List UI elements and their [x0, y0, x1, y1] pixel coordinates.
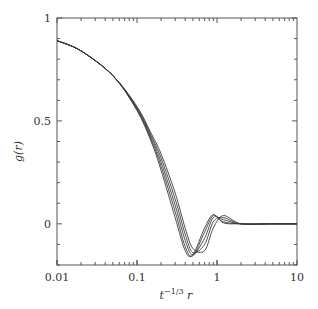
series-line [57, 41, 297, 253]
data-series [57, 41, 297, 257]
y-tick-label: 0.5 [34, 115, 52, 128]
x-axis-label: t−1/3 r [160, 287, 193, 302]
axis-ticks [57, 18, 297, 265]
y-axis-label: g(r) [12, 141, 25, 162]
chart: 0.010.111000.51 g(r) t−1/3 r [0, 0, 318, 309]
y-tick-label: 1 [44, 12, 51, 25]
axis-tick-labels: 0.010.111000.51 [34, 12, 305, 284]
series-line [57, 41, 297, 253]
plot-frame [57, 18, 297, 265]
x-tick-label: 1 [214, 271, 221, 284]
x-tick-label: 0.01 [45, 271, 70, 284]
y-tick-label: 0 [44, 218, 51, 231]
x-tick-label: 10 [290, 271, 304, 284]
x-tick-label: 0.1 [128, 271, 146, 284]
